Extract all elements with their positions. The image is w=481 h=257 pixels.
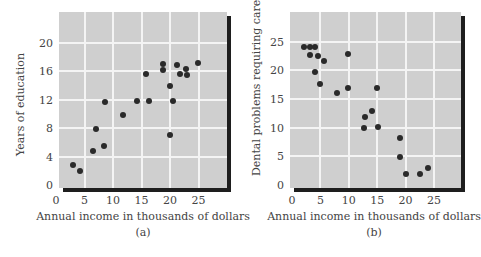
x-tick-label: 25 — [427, 195, 441, 206]
y-tick-label: 5 — [264, 151, 284, 162]
y-tick-label: 0 — [264, 180, 284, 191]
x-tick-label: 20 — [399, 195, 413, 206]
gridline-horizontal — [290, 155, 461, 157]
x-tick-label: 15 — [370, 195, 384, 206]
data-point — [397, 135, 403, 141]
data-point — [307, 52, 313, 58]
y-tick-label: 10 — [264, 122, 284, 133]
gridline-horizontal — [290, 41, 461, 43]
panel-caption: (b) — [366, 226, 382, 239]
data-point — [315, 53, 321, 59]
data-point — [361, 125, 367, 131]
data-point — [301, 44, 307, 50]
data-point — [403, 171, 409, 177]
y-tick-label: 15 — [264, 94, 284, 105]
data-point — [397, 154, 403, 160]
y-axis-label: Dental problems requiring care — [250, 0, 263, 176]
x-tick-label: 0 — [289, 195, 296, 206]
data-point — [374, 85, 380, 91]
x-tick-label: 10 — [342, 195, 356, 206]
data-point — [375, 124, 381, 130]
data-point — [312, 69, 318, 75]
data-point — [345, 85, 351, 91]
data-point — [321, 58, 327, 64]
data-point — [417, 171, 423, 177]
x-axis-label: Annual income in thousands of dollars — [267, 210, 481, 223]
data-point — [362, 114, 368, 120]
data-point — [312, 44, 318, 50]
data-point — [317, 81, 323, 87]
y-tick-label: 25 — [264, 36, 284, 47]
data-point — [425, 165, 431, 171]
y-tick-label: 20 — [264, 65, 284, 76]
x-tick-label: 5 — [317, 195, 324, 206]
data-point — [369, 108, 375, 114]
plot-area — [290, 12, 461, 188]
gridline-horizontal — [290, 98, 461, 100]
data-point — [334, 90, 340, 96]
